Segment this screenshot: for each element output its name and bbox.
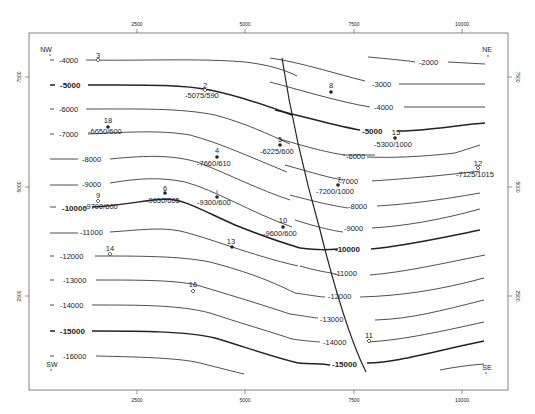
well-3[interactable]: 3: [96, 51, 100, 62]
svg-text:-9650/605: -9650/605: [146, 196, 180, 205]
contour-label-e-7000: -7000: [339, 177, 358, 186]
contour-label-e-3000: -3000: [372, 80, 391, 89]
x-tick-top-10000: 10000: [455, 21, 469, 27]
corner-label-sw: SW: [46, 361, 58, 368]
svg-text:-5300/1000: -5300/1000: [374, 140, 412, 149]
svg-text:16: 16: [189, 280, 197, 289]
svg-text:-9600/600: -9600/600: [263, 229, 297, 238]
well-8[interactable]: 8: [329, 81, 333, 94]
svg-text:-9300/600: -9300/600: [197, 198, 231, 207]
x-tick-top-7500: 7500: [348, 21, 359, 27]
contour-label-e-8000: -8000: [348, 202, 367, 211]
y-tick-left-5000: 5000: [16, 181, 22, 192]
svg-text:18: 18: [104, 116, 112, 125]
well-16[interactable]: 16: [189, 280, 197, 293]
svg-text:10: 10: [279, 216, 287, 225]
contour-label-e-4000: -4000: [374, 103, 393, 112]
producer-well-icon: [163, 191, 167, 195]
contour-label-e-5000: -5000: [362, 127, 383, 136]
contour-label-e-2000: -2000: [419, 58, 438, 67]
x-tick-bottom-7500: 7500: [348, 397, 359, 403]
svg-text:-7660/610: -7660/610: [197, 159, 231, 168]
svg-text:-6225/600: -6225/600: [260, 147, 294, 156]
contour-label-w-6000: -6000: [59, 105, 78, 114]
dry-hole-icon: [191, 289, 195, 293]
contour-label-e-10000: -10000: [335, 245, 360, 254]
svg-text:-7200/1000: -7200/1000: [316, 187, 354, 196]
producer-well-icon: [230, 245, 234, 249]
svg-text:8: 8: [329, 81, 333, 90]
svg-text:7: 7: [337, 175, 341, 184]
contour-label-e-14000: -14000: [323, 338, 346, 347]
svg-text:13: 13: [227, 237, 235, 246]
well-9[interactable]: 9 -9700/600: [84, 191, 118, 211]
contour-label-w-9000: -9000: [82, 180, 101, 189]
svg-text:-6650/600: -6650/600: [88, 127, 122, 136]
contour-label-w-16000: -16000: [63, 352, 86, 361]
contours-west-block: [50, 60, 300, 374]
contour-label-e-9000: -9000: [344, 224, 363, 233]
contour-label-w-12000: -12000: [60, 252, 83, 261]
structure-contour-map: 2500 5000 7500 10000 2500 5000 7500 1000…: [0, 0, 535, 414]
y-tick-left-7500: 7500: [16, 71, 22, 82]
corner-label-ne: NE: [482, 46, 492, 53]
svg-text:15: 15: [392, 128, 400, 137]
svg-text:5: 5: [278, 135, 282, 144]
y-tick-right-7500: 7500: [515, 71, 521, 82]
contour-label-w-15000: -15000: [60, 327, 85, 336]
corner-label-se: SE: [482, 364, 492, 371]
y-axis-right: [508, 77, 512, 296]
contour-label-w-8000: -8000: [82, 155, 101, 164]
fault-trace: [282, 58, 366, 372]
x-axis-bottom: [137, 390, 462, 394]
contour-label-e-13000: -13000: [320, 315, 343, 324]
y-tick-right-5000: 5000: [515, 181, 521, 192]
contour-label-w-13000: -13000: [63, 276, 86, 285]
contour-label-w-11000: -11000: [80, 228, 103, 237]
well-2[interactable]: 2 -5075/590: [185, 81, 219, 100]
x-tick-bottom-5000: 5000: [239, 397, 250, 403]
svg-text:-9700/600: -9700/600: [84, 202, 118, 211]
contour-label-w-7000: -7000: [59, 130, 78, 139]
y-tick-left-2500: 2500: [16, 290, 22, 301]
contour-label-e-11000: -11000: [334, 269, 357, 278]
y-axis-left: [25, 77, 29, 296]
well-11[interactable]: 11: [365, 331, 373, 343]
map-frame: [29, 33, 508, 390]
well-6[interactable]: 6 -9650/605: [146, 184, 180, 205]
well-4[interactable]: 4 -7660/610: [197, 146, 231, 168]
well-13[interactable]: 13: [227, 237, 235, 249]
svg-text:4: 4: [215, 146, 219, 155]
well-14[interactable]: 14: [106, 244, 114, 256]
y-tick-right-2500: 2500: [515, 290, 521, 301]
contour-label-e-15000: -15000: [332, 360, 357, 369]
svg-text:-7125/1015: -7125/1015: [456, 170, 494, 179]
producer-well-icon: [329, 90, 333, 94]
contour-label-e-12000: -12000: [328, 292, 351, 301]
x-axis-top: [137, 29, 462, 33]
contour-label-w-4000: -4000: [59, 56, 78, 65]
well-18[interactable]: 18 -6650/600: [88, 116, 122, 136]
corner-label-nw: NW: [40, 46, 52, 53]
contour-label-w-5000: -5000: [60, 81, 81, 90]
contour-label-w-14000: -14000: [60, 301, 83, 310]
x-tick-top-2500: 2500: [131, 21, 142, 27]
well-12[interactable]: 12 -7125/1015: [456, 159, 494, 179]
x-tick-bottom-2500: 2500: [131, 397, 142, 403]
contour-label-e-6000: -6000: [346, 152, 365, 161]
x-tick-top-5000: 5000: [239, 21, 250, 27]
svg-text:-5075/590: -5075/590: [185, 91, 219, 100]
x-tick-bottom-10000: 10000: [455, 397, 469, 403]
